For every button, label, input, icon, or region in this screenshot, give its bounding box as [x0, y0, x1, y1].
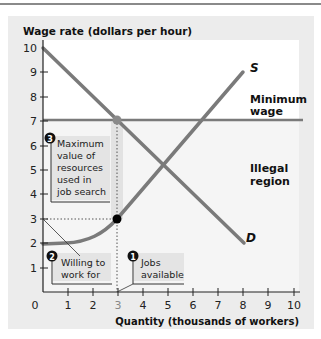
illegal-region-label-line2: region: [250, 175, 290, 188]
svg-text:8: 8: [30, 91, 37, 104]
x-tick-labels: 0 1 2 3 4 5 6 7 8 9 10: [32, 299, 302, 312]
svg-text:Jobs: Jobs: [140, 257, 161, 268]
svg-text:Maximum: Maximum: [57, 138, 104, 149]
svg-text:2: 2: [90, 299, 97, 312]
svg-text:resources: resources: [57, 162, 103, 173]
svg-text:7: 7: [30, 115, 37, 128]
note3-text: Maximum value of resources used in job s…: [56, 138, 106, 197]
svg-text:6: 6: [190, 299, 197, 312]
svg-text:work for: work for: [61, 269, 100, 280]
note2-text: Willing to work for: [61, 257, 106, 280]
svg-text:4: 4: [30, 188, 37, 201]
x-axis-title: Quantity (thousands of workers): [115, 316, 299, 327]
illegal-region-label-line1: Illegal: [250, 162, 288, 175]
y-tick-labels: 10 9 8 7 6 5 4 3 2 1: [23, 42, 37, 275]
svg-text:9: 9: [265, 299, 272, 312]
svg-text:10: 10: [287, 299, 301, 312]
y-axis-title: Wage rate (dollars per hour): [23, 25, 192, 37]
svg-text:2: 2: [30, 237, 37, 250]
svg-text:3: 3: [47, 135, 53, 144]
svg-text:5: 5: [30, 164, 37, 177]
svg-text:1: 1: [65, 299, 72, 312]
supply-label: S: [250, 61, 259, 75]
svg-text:Willing to: Willing to: [61, 257, 106, 268]
point-min-wage-supply: [113, 116, 122, 125]
svg-text:used in: used in: [57, 174, 92, 185]
svg-text:1: 1: [130, 253, 136, 262]
svg-text:10: 10: [23, 42, 37, 55]
svg-text:5: 5: [165, 299, 172, 312]
demand-label: D: [246, 231, 256, 245]
chart: 10 9 8 7 6 5 4 3 2 1 0 1 2 3 4 5 6 7 8 9…: [0, 0, 321, 339]
svg-text:job search: job search: [56, 186, 106, 197]
svg-text:8: 8: [240, 299, 247, 312]
svg-text:3: 3: [30, 213, 37, 226]
svg-text:7: 7: [215, 299, 222, 312]
svg-text:2: 2: [49, 253, 55, 262]
svg-text:available: available: [141, 269, 184, 280]
minimum-wage-label-line2: wage: [250, 105, 283, 118]
svg-text:3: 3: [115, 299, 122, 312]
svg-text:0: 0: [32, 299, 39, 312]
svg-text:9: 9: [30, 66, 37, 79]
point-willing-wage: [113, 215, 122, 224]
svg-text:4: 4: [140, 299, 147, 312]
svg-text:1: 1: [30, 262, 37, 275]
svg-text:value of: value of: [57, 150, 96, 161]
svg-text:6: 6: [30, 140, 37, 153]
